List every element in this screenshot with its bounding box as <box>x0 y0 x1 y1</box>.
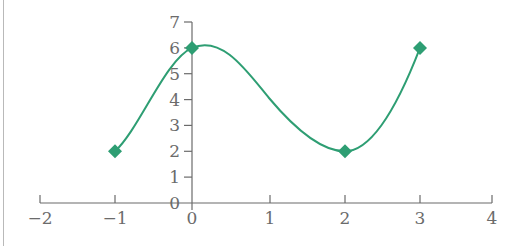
x-tick-label-minus2: −2 <box>27 210 52 227</box>
x-tick-label-2: 2 <box>340 210 351 227</box>
x-axis-ticks <box>40 195 492 203</box>
y-tick-label-5: 5 <box>169 65 180 82</box>
data-point-markers <box>108 41 427 158</box>
x-tick-label-1: 1 <box>265 210 276 227</box>
x-tick-label-3: 3 <box>415 210 426 227</box>
x-tick-label-0: 0 <box>187 210 198 227</box>
data-point-marker <box>413 41 427 55</box>
y-tick-label-3: 3 <box>169 117 180 134</box>
y-tick-label-4: 4 <box>169 91 180 108</box>
data-point-marker <box>185 41 199 55</box>
data-series-line <box>115 45 420 151</box>
y-tick-label-0: 0 <box>169 195 180 212</box>
plot-canvas <box>0 0 527 246</box>
y-tick-label-7: 7 <box>169 14 180 31</box>
x-tick-label-minus1: −1 <box>102 210 127 227</box>
y-tick-label-2: 2 <box>169 143 180 160</box>
x-tick-label-4: 4 <box>487 210 498 227</box>
y-tick-label-1: 1 <box>169 169 180 186</box>
chart-figure: 7 6 5 4 3 2 1 0 −2 −1 0 1 2 3 4 <box>0 0 527 246</box>
y-tick-label-6: 6 <box>169 39 180 56</box>
data-point-marker <box>338 144 352 158</box>
